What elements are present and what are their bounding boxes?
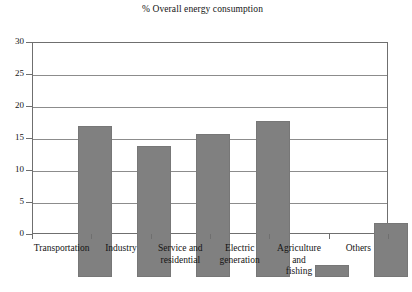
x-axis-tick-label-line: Others <box>324 243 393 255</box>
y-axis-tick <box>26 42 33 43</box>
y-axis-tick-label: 25 <box>2 69 24 78</box>
y-axis-tick-label: 0 <box>2 229 24 238</box>
x-axis-tick <box>329 234 330 239</box>
y-axis-tick <box>26 74 33 75</box>
y-axis-tick-label: 10 <box>2 165 24 174</box>
chart-title: % Overall energy consumption <box>0 4 405 14</box>
x-axis-tick-label: Others <box>324 243 393 255</box>
x-axis-tick <box>91 234 92 239</box>
y-axis-tick-label: 20 <box>2 101 24 110</box>
y-axis-tick <box>26 170 33 171</box>
x-axis-tick <box>151 234 152 239</box>
y-axis-tick <box>26 202 33 203</box>
x-axis-tick <box>32 234 33 239</box>
y-axis: 051015202530 <box>0 0 24 292</box>
y-axis-tick <box>26 106 33 107</box>
plot-area <box>32 42 388 234</box>
x-axis-tick <box>269 234 270 239</box>
y-axis-tick-label: 15 <box>2 133 24 142</box>
y-axis-tick-label: 5 <box>2 197 24 206</box>
x-axis-tick-label-line: fishing <box>264 266 333 278</box>
gridline <box>33 75 387 76</box>
x-axis-tick <box>210 234 211 239</box>
y-axis-tick-label: 30 <box>2 37 24 46</box>
x-axis-tick <box>388 234 389 239</box>
x-axis-tick-label-line: and <box>264 255 333 267</box>
y-axis-tick <box>26 138 33 139</box>
